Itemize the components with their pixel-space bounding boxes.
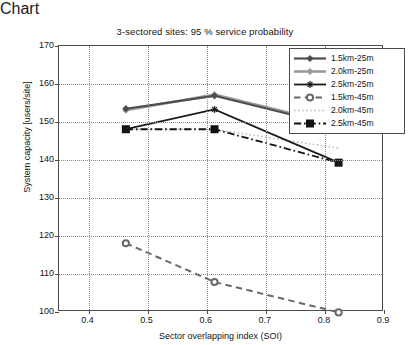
- y-axis-tick-label: 110: [20, 268, 54, 278]
- y-axis-tick: [55, 274, 59, 275]
- legend-item[interactable]: 2.5km-25m: [293, 78, 401, 91]
- legend-swatch: [293, 65, 327, 78]
- x-axis-tick-labels: 0.40.50.60.70.80.9: [58, 315, 383, 329]
- legend-line-sample: [293, 91, 327, 104]
- legend-line-sample: [293, 78, 327, 91]
- legend-item[interactable]: 1.5km-25m: [293, 52, 401, 65]
- chart-figure: 3-sectored sites: 95 % service probabili…: [0, 18, 410, 345]
- data-point-marker: [307, 120, 313, 126]
- gridline-horizontal: [59, 274, 382, 275]
- x-axis-tick: [384, 310, 385, 314]
- data-point-marker: [211, 91, 218, 98]
- legend-label: 1.5km-45m: [327, 91, 374, 104]
- legend-item[interactable]: 2.0km-45m: [293, 104, 401, 117]
- gridline-horizontal: [59, 198, 382, 199]
- x-axis-tick-label: 0.9: [363, 315, 403, 325]
- x-axis-title: Sector overlapping index (SOI): [58, 331, 383, 341]
- y-axis-tick-label: 100: [20, 306, 54, 316]
- legend-label: 2.0km-25m: [327, 65, 374, 78]
- x-axis-tick-label: 0.7: [245, 315, 285, 325]
- x-axis-tick-label: 0.5: [127, 315, 167, 325]
- gridline-vertical: [207, 46, 208, 310]
- legend-swatch: [293, 104, 327, 117]
- legend-swatch: [293, 91, 327, 104]
- data-point-marker: [123, 126, 129, 132]
- data-point-marker: [122, 126, 129, 133]
- series-line: [126, 243, 339, 312]
- data-point-marker: [122, 105, 129, 112]
- x-axis-tick: [89, 310, 90, 314]
- legend-line-sample: [293, 117, 327, 130]
- legend-swatch: [293, 117, 327, 130]
- data-point-marker: [211, 126, 217, 132]
- y-axis-tick: [55, 198, 59, 199]
- x-axis-tick-label: 0.8: [304, 315, 344, 325]
- legend-label: 1.5km-25m: [327, 52, 374, 65]
- x-axis-tick-label: 0.4: [68, 315, 108, 325]
- legend-line-sample: [293, 65, 327, 78]
- y-axis-tick: [55, 312, 59, 313]
- data-point-marker: [307, 94, 313, 100]
- legend-item[interactable]: 1.5km-45m: [293, 91, 401, 104]
- x-axis-tick: [325, 310, 326, 314]
- legend-line-sample: [293, 52, 327, 65]
- data-point-marker: [211, 106, 218, 113]
- gridline-horizontal: [59, 160, 382, 161]
- x-axis-tick: [207, 310, 208, 314]
- legend: 1.5km-25m2.0km-25m2.5km-25m1.5km-45m2.0k…: [289, 48, 405, 134]
- data-point-marker: [123, 240, 129, 246]
- x-axis-tick: [266, 310, 267, 314]
- y-axis-tick: [55, 84, 59, 85]
- y-axis-tick: [55, 46, 59, 47]
- data-point-marker: [211, 92, 218, 99]
- x-axis-tick: [148, 310, 149, 314]
- gridline-horizontal: [59, 236, 382, 237]
- legend-label: 2.0km-45m: [327, 104, 374, 117]
- legend-item[interactable]: 2.5km-45m: [293, 117, 401, 130]
- data-point-marker: [122, 107, 129, 114]
- y-axis-title: System capacity [users/site]: [22, 57, 32, 217]
- gridline-vertical: [148, 46, 149, 310]
- legend-label: 2.5km-25m: [327, 78, 374, 91]
- x-axis-tick-label: 0.6: [186, 315, 226, 325]
- y-axis-tick-label: 170: [20, 40, 54, 50]
- series-15km-45m: [123, 240, 342, 315]
- y-axis-tick: [55, 236, 59, 237]
- gridline-vertical: [266, 46, 267, 310]
- legend-swatch: [293, 52, 327, 65]
- data-point-marker: [307, 81, 314, 88]
- gridline-vertical: [89, 46, 90, 310]
- chart-title: 3-sectored sites: 95 % service probabili…: [0, 26, 410, 37]
- y-axis-tick: [55, 122, 59, 123]
- data-point-marker: [306, 68, 313, 75]
- data-point-marker: [306, 55, 313, 62]
- legend-item[interactable]: 2.0km-25m: [293, 65, 401, 78]
- y-axis-tick: [55, 160, 59, 161]
- y-axis-tick-label: 120: [20, 230, 54, 240]
- legend-label: 2.5km-45m: [327, 117, 374, 130]
- legend-line-sample: [293, 104, 327, 117]
- legend-swatch: [293, 78, 327, 91]
- data-point-marker: [211, 279, 217, 285]
- series-line: [126, 129, 339, 162]
